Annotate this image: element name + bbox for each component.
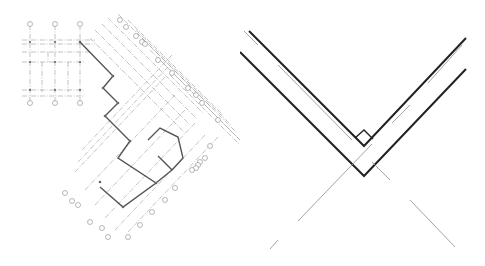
diagonal-grid — [75, 14, 240, 232]
grid-line — [128, 137, 218, 232]
grid-bubble — [28, 101, 33, 106]
grid-bubble — [53, 101, 58, 106]
grid-bubble — [100, 226, 105, 231]
grid-bubble — [28, 22, 33, 27]
grid-bubble — [88, 220, 93, 225]
grid-bubble — [53, 22, 58, 27]
grid-line — [78, 67, 168, 162]
floor-plan-drawing — [0, 0, 240, 266]
grid-line — [142, 38, 237, 133]
grid-bubble — [70, 199, 75, 204]
grid-line — [136, 30, 231, 125]
outer-wall — [240, 52, 466, 176]
grid-bubble — [200, 101, 205, 106]
grid-line — [108, 18, 203, 113]
grid-bubble — [173, 186, 178, 191]
grid-bubble — [170, 71, 175, 76]
grid-line — [82, 55, 172, 150]
corner-detail-panel — [240, 0, 485, 266]
grid-bubble — [143, 42, 148, 47]
grid-line — [85, 95, 175, 190]
grid-bubble — [76, 203, 81, 208]
grid-bubble — [156, 58, 161, 63]
grid-bubble — [126, 235, 131, 240]
grid-bubble — [138, 223, 143, 228]
grid-bubble — [124, 25, 129, 30]
grid-bubble — [106, 235, 111, 240]
grid-bubble — [190, 168, 195, 173]
grid-bubble — [118, 18, 123, 23]
grid-line — [128, 20, 223, 115]
grid-bubble — [208, 144, 213, 149]
grid-bubble — [186, 86, 191, 91]
inner-wall — [249, 31, 466, 146]
grid-line — [75, 77, 165, 172]
grid-line — [95, 110, 185, 205]
grid-bubble — [194, 93, 199, 98]
grid-bubble — [63, 191, 68, 196]
corner-square — [355, 130, 373, 139]
grid-bubble — [78, 22, 83, 27]
grid-bubble — [203, 156, 208, 161]
corner-detail-drawing — [240, 0, 485, 266]
grid-bubble — [78, 101, 83, 106]
grid-bubble — [216, 118, 221, 123]
diagonal-bubbles — [63, 18, 221, 240]
reference-lines — [244, 31, 462, 249]
floor-plan-panel — [0, 0, 240, 266]
grid-bubble — [150, 210, 155, 215]
orthogonal-grid — [22, 25, 95, 102]
grid-line — [115, 135, 205, 230]
grid-bubble — [163, 198, 168, 203]
grid-bubble — [134, 34, 139, 39]
